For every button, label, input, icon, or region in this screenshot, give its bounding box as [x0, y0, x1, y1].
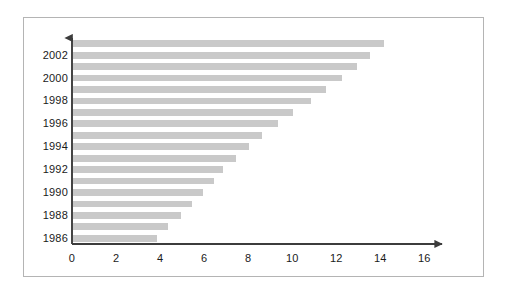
x-axis-tick-label: 0 [69, 253, 75, 264]
plot-area: 200220001998199619941992199019881986 024… [24, 18, 485, 278]
x-axis-tick-labels: 0246810121416 [24, 18, 485, 278]
x-axis-tick-label: 6 [201, 253, 207, 264]
x-axis-tick-label: 2 [113, 253, 119, 264]
x-axis-tick-label: 14 [374, 253, 387, 264]
x-axis-tick-label: 16 [418, 253, 431, 264]
x-axis-tick-label: 8 [245, 253, 251, 264]
x-axis-tick-label: 4 [157, 253, 163, 264]
x-axis-tick-label: 10 [286, 253, 299, 264]
chart-frame: 200220001998199619941992199019881986 024… [23, 17, 484, 277]
x-axis-tick-label: 12 [330, 253, 343, 264]
